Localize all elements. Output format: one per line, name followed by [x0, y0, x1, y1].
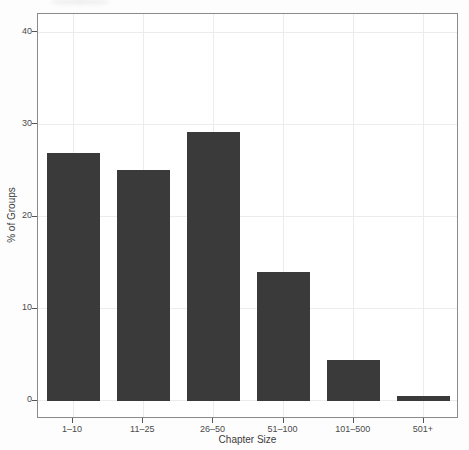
x-tick-mark: [142, 418, 143, 423]
x-tick-mark: [423, 418, 424, 423]
x-tick-label: 101–500: [313, 424, 393, 434]
x-tick-label: 501+: [383, 424, 463, 434]
bar: [117, 170, 170, 400]
x-tick-label: 51–100: [243, 424, 323, 434]
y-tick-mark: [32, 216, 37, 217]
y-tick-mark: [32, 308, 37, 309]
bar: [187, 132, 240, 401]
y-tick-label: 0: [0, 395, 32, 404]
x-tick-mark: [283, 418, 284, 423]
y-tick-label: 40: [0, 27, 32, 36]
y-tick-mark: [32, 123, 37, 124]
bar: [327, 360, 380, 401]
x-tick-mark: [72, 418, 73, 423]
x-tick-label: 1–10: [32, 424, 112, 434]
x-tick-mark: [212, 418, 213, 423]
scan-artifact: [50, 0, 110, 4]
y-tick-label: 10: [0, 303, 32, 312]
y-gridline: [38, 216, 457, 217]
x-tick-label: 26–50: [172, 424, 252, 434]
bar-chart-figure: % of Groups 010203040 1–1011–2526–5051–1…: [0, 0, 469, 450]
bar: [47, 153, 100, 401]
y-tick-mark: [32, 400, 37, 401]
y-gridline: [38, 32, 457, 33]
y-gridline: [38, 400, 457, 401]
y-gridline: [38, 308, 457, 309]
x-tick-label: 11–25: [102, 424, 182, 434]
y-tick-label: 30: [0, 119, 32, 128]
bar: [257, 272, 310, 401]
chart-panel: [37, 13, 458, 418]
bar: [397, 396, 450, 401]
y-tick-mark: [32, 31, 37, 32]
y-gridline: [38, 124, 457, 125]
x-gridline: [423, 14, 424, 417]
x-axis-title: Chapter Size: [37, 434, 458, 445]
x-tick-mark: [353, 418, 354, 423]
y-tick-label: 20: [0, 211, 32, 220]
x-gridline: [353, 14, 354, 417]
